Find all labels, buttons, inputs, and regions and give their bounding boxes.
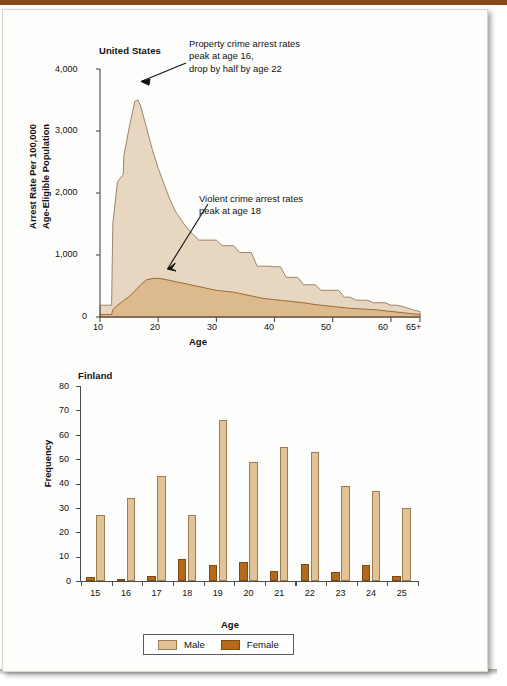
united-states-chart: United States Arrest Rate Per 100,000 Ag… bbox=[3, 24, 490, 354]
fi-ytick-20: 20 bbox=[59, 527, 69, 537]
us-ytick-4000: 4,000 bbox=[55, 64, 78, 74]
fi-bar-male-15 bbox=[96, 515, 105, 581]
fi-legend-item-female: Female bbox=[221, 639, 279, 650]
us-ytick-3000: 3,000 bbox=[55, 125, 78, 135]
fi-xtick-label-22: 22 bbox=[305, 588, 315, 598]
fi-ytick-70: 70 bbox=[59, 405, 69, 415]
fi-xtick-sep-7 bbox=[295, 581, 296, 586]
fi-ytickmark-40 bbox=[76, 484, 81, 485]
us-chart-title: United States bbox=[99, 45, 161, 56]
us-y-axis-title-line2: Age-Eligible Population bbox=[39, 124, 50, 229]
us-ytick-2000: 2,000 bbox=[55, 187, 78, 197]
fi-bar-male-17 bbox=[157, 476, 166, 581]
fi-ytick-80: 80 bbox=[59, 381, 69, 391]
us-xtick-20: 20 bbox=[150, 322, 160, 332]
fi-ytick-50: 50 bbox=[59, 454, 69, 464]
us-x-tickmarks bbox=[100, 317, 420, 322]
fi-xtick-sep-3 bbox=[173, 581, 174, 586]
fi-legend: Male Female bbox=[143, 634, 294, 655]
fi-xtick-label-18: 18 bbox=[182, 588, 192, 598]
fi-xtick-label-24: 24 bbox=[366, 588, 376, 598]
fi-bar-male-20 bbox=[249, 462, 258, 581]
us-ytick-0: 0 bbox=[82, 311, 87, 321]
fi-xtick-sep-1 bbox=[112, 581, 113, 586]
fi-xtick-sep-10 bbox=[387, 581, 388, 586]
us-xtick-65plus: 65+ bbox=[406, 322, 421, 332]
us-xtick-30: 30 bbox=[207, 322, 217, 332]
figure-page: United States Arrest Rate Per 100,000 Ag… bbox=[0, 0, 507, 686]
fi-xtick-label-21: 21 bbox=[274, 588, 284, 598]
fi-x-axis-line bbox=[80, 581, 419, 582]
fi-xtick-sep-end bbox=[418, 581, 419, 586]
page-sheet: United States Arrest Rate Per 100,000 Ag… bbox=[2, 9, 488, 672]
fi-xtick-sep-4 bbox=[204, 581, 205, 586]
fi-bar-male-16 bbox=[127, 498, 136, 581]
us-x-axis-title: Age bbox=[189, 336, 207, 347]
fi-bar-male-25 bbox=[402, 508, 411, 581]
female-color-swatch bbox=[221, 640, 240, 650]
fi-ytickmark-30 bbox=[76, 508, 81, 509]
fi-xtick-sep-5 bbox=[234, 581, 235, 586]
fi-x-axis-title: Age bbox=[221, 619, 239, 630]
us-xtick-40: 40 bbox=[264, 322, 274, 332]
us-plot-area bbox=[100, 69, 420, 317]
fi-xtick-sep-8 bbox=[326, 581, 327, 586]
fi-ytick-40: 40 bbox=[59, 478, 69, 488]
fi-ytick-10: 10 bbox=[59, 551, 69, 561]
fi-xtick-sep-2 bbox=[142, 581, 143, 586]
fi-ytickmark-80 bbox=[76, 386, 81, 387]
fi-bar-male-18 bbox=[188, 515, 197, 581]
us-xtick-60: 60 bbox=[378, 322, 388, 332]
fi-bar-male-24 bbox=[372, 491, 381, 581]
fi-bar-male-23 bbox=[341, 486, 350, 581]
fi-xtick-label-20: 20 bbox=[244, 588, 254, 598]
fi-bar-group bbox=[81, 386, 418, 581]
fi-ytickmark-20 bbox=[76, 532, 81, 533]
fi-ytickmark-60 bbox=[76, 435, 81, 436]
fi-xtick-sep-6 bbox=[265, 581, 266, 586]
fi-bar-female-19 bbox=[209, 565, 218, 581]
fi-legend-label-male: Male bbox=[184, 639, 205, 650]
fi-chart-title: Finland bbox=[78, 370, 112, 381]
fi-bar-male-19 bbox=[219, 420, 228, 581]
us-annotation-property-line2: peak at age 16, bbox=[189, 50, 300, 62]
fi-ytickmark-70 bbox=[76, 410, 81, 411]
us-y-axis-title-line1: Arrest Rate Per 100,000 bbox=[27, 124, 38, 229]
us-annotation-property-line1: Property crime arrest rates bbox=[189, 38, 300, 50]
top-accent-rule bbox=[0, 0, 507, 5]
fi-xtick-label-19: 19 bbox=[213, 588, 223, 598]
us-y-axis-title: Arrest Rate Per 100,000 Age-Eligible Pop… bbox=[27, 97, 52, 257]
fi-xtick-label-23: 23 bbox=[335, 588, 345, 598]
fi-plot-area: 1516171819202122232425 bbox=[81, 386, 418, 581]
fi-legend-item-male: Male bbox=[158, 639, 205, 650]
us-xtick-10: 10 bbox=[93, 322, 103, 332]
fi-ytick-30: 30 bbox=[59, 503, 69, 513]
fi-bar-female-20 bbox=[239, 562, 248, 582]
fi-ytickmark-50 bbox=[76, 459, 81, 460]
fi-xtick-sep-0 bbox=[81, 581, 82, 586]
fi-xtick-label-15: 15 bbox=[90, 588, 100, 598]
fi-y-axis-title: Frequency bbox=[42, 419, 53, 509]
fi-xtick-label-25: 25 bbox=[397, 588, 407, 598]
fi-xtick-sep-9 bbox=[357, 581, 358, 586]
fi-bar-female-18 bbox=[178, 559, 187, 581]
us-y-tickmarks bbox=[96, 69, 100, 317]
fi-ytick-60: 60 bbox=[59, 430, 69, 440]
fi-bar-male-22 bbox=[311, 452, 320, 581]
us-xtick-50: 50 bbox=[321, 322, 331, 332]
male-color-swatch bbox=[158, 640, 177, 650]
fi-bar-female-22 bbox=[301, 564, 310, 581]
fi-bar-female-21 bbox=[270, 571, 279, 581]
fi-legend-label-female: Female bbox=[247, 639, 279, 650]
fi-xtick-label-17: 17 bbox=[152, 588, 162, 598]
fi-ytick-0: 0 bbox=[66, 576, 71, 586]
fi-bar-female-24 bbox=[362, 565, 371, 581]
us-ytick-1000: 1,000 bbox=[55, 249, 78, 259]
fi-xtick-label-16: 16 bbox=[121, 588, 131, 598]
fi-ytickmark-10 bbox=[76, 557, 81, 558]
fi-bar-male-21 bbox=[280, 447, 289, 581]
finland-chart: Finland Frequency Age 80 70 60 50 40 30 … bbox=[3, 362, 490, 682]
fi-bar-female-23 bbox=[331, 572, 340, 581]
